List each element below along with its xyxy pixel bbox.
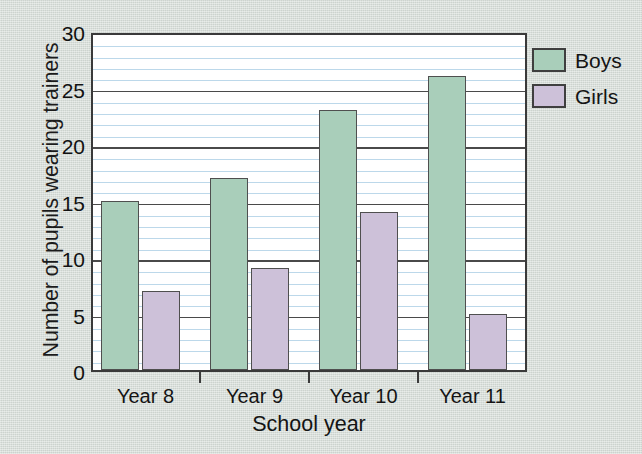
bar-girls-year-8 bbox=[142, 291, 180, 370]
chart-figure: Number of pupils wearing trainers 051015… bbox=[0, 0, 642, 454]
bar-boys-year-11 bbox=[428, 76, 466, 370]
x-axis-category-label: Year 10 bbox=[329, 385, 397, 408]
y-axis-tick-label: 0 bbox=[73, 362, 85, 383]
x-axis-tick bbox=[308, 372, 310, 383]
y-axis-tick-label: 20 bbox=[62, 136, 85, 157]
gridline-minor bbox=[93, 69, 525, 70]
x-axis-category-label: Year 8 bbox=[117, 385, 174, 408]
bar-boys-year-9 bbox=[210, 178, 248, 370]
x-axis-ticks bbox=[91, 372, 527, 384]
bar-girls-year-11 bbox=[469, 314, 507, 371]
gridline-minor bbox=[93, 58, 525, 59]
bar-girls-year-9 bbox=[251, 268, 289, 370]
bar-girls-year-10 bbox=[360, 212, 398, 370]
y-axis-tick-label: 25 bbox=[62, 79, 85, 100]
x-axis-tick bbox=[417, 372, 419, 383]
y-axis-tick-label: 5 bbox=[73, 305, 85, 326]
plot-inner bbox=[93, 35, 525, 370]
legend-label-girls: Girls bbox=[575, 86, 618, 107]
x-axis-category-labels: Year 8Year 9Year 10Year 11 bbox=[91, 385, 527, 411]
bar-boys-year-10 bbox=[319, 110, 357, 370]
y-axis-tick-label: 30 bbox=[62, 23, 85, 44]
x-axis-title: School year bbox=[91, 412, 527, 437]
y-axis-tick-label: 10 bbox=[62, 249, 85, 270]
x-axis-tick bbox=[199, 372, 201, 383]
legend-item-girls: Girls bbox=[532, 80, 622, 112]
x-axis-category-label: Year 11 bbox=[439, 385, 506, 408]
y-axis-tick-label: 15 bbox=[62, 192, 85, 213]
legend-swatch-girls bbox=[532, 84, 566, 108]
legend-item-boys: Boys bbox=[532, 44, 622, 76]
legend-label-boys: Boys bbox=[575, 50, 622, 71]
y-axis-tick-labels: 051015202530 bbox=[45, 33, 85, 372]
bar-boys-year-8 bbox=[101, 201, 139, 371]
legend-swatch-boys bbox=[532, 48, 566, 72]
plot-area bbox=[91, 33, 527, 372]
chart-legend: BoysGirls bbox=[532, 44, 622, 116]
x-axis-category-label: Year 9 bbox=[226, 385, 283, 408]
gridline-minor bbox=[93, 46, 525, 47]
